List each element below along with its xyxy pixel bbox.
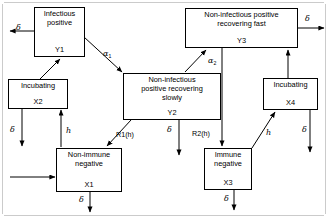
node-non-infectious-positive-recovering-fast: Non-infectious positive recovering fast …	[185, 8, 298, 48]
r1h-label: R1(h)	[116, 131, 134, 138]
delta-label-x2-outflow: δ	[10, 126, 15, 134]
delta-label-y2-outflow: δ	[167, 126, 172, 134]
node-non-infectious-positive-recovering-slowly: Non-infectious positive recovering slowl…	[123, 73, 221, 120]
node-code: Y1	[55, 46, 64, 55]
node-title: Incubating	[273, 81, 307, 90]
delta-label-x4-outflow: δ	[302, 126, 307, 134]
delta-label-y1-outflow: δ	[16, 24, 21, 32]
node-code: X1	[84, 181, 93, 190]
node-immune-negative: Immune negative X3	[204, 148, 252, 190]
node-title: Non-infectious positive recovering slowl…	[141, 76, 203, 103]
node-incubating-x2: Incubating X2	[8, 79, 68, 109]
node-code: X3	[223, 179, 232, 188]
alpha2-label: α2	[208, 57, 216, 67]
node-code: X4	[286, 99, 295, 108]
edge-y2-to-y3-alpha2	[185, 50, 206, 72]
node-code: Y3	[237, 37, 246, 46]
h-label-x4-to-x3: h	[266, 129, 271, 137]
node-title: Immune negative	[214, 151, 242, 169]
delta-label-y3-outflow: δ	[305, 15, 310, 23]
delta-label-x1-outflow: δ	[79, 196, 84, 204]
node-title: Non-infectious positive recovering fast	[204, 11, 278, 29]
r2h-label: R2(h)	[192, 130, 210, 137]
node-code: Y2	[167, 109, 176, 118]
alpha1-label: α1	[103, 50, 111, 60]
alpha-subscript: 1	[108, 53, 111, 59]
node-incubating-x4: Incubating X4	[263, 78, 318, 110]
edge-x3-to-x4-h	[252, 112, 275, 148]
edge-x2-to-y1	[40, 59, 60, 79]
node-title: Infectious positive	[44, 10, 76, 28]
compartmental-flow-diagram: Infectious positive Y1 Incubating X2 Non…	[0, 0, 328, 220]
node-code: X2	[33, 98, 42, 107]
node-non-immune-negative: Non-immune negative X1	[56, 148, 122, 192]
alpha-subscript: 2	[213, 60, 216, 66]
h-label-x2-to-x1: h	[66, 127, 71, 135]
node-infectious-positive: Infectious positive Y1	[34, 7, 85, 57]
delta-label-x3-outflow: δ	[224, 195, 229, 203]
node-title: Incubating	[21, 82, 55, 91]
node-title: Non-immune negative	[68, 151, 110, 169]
